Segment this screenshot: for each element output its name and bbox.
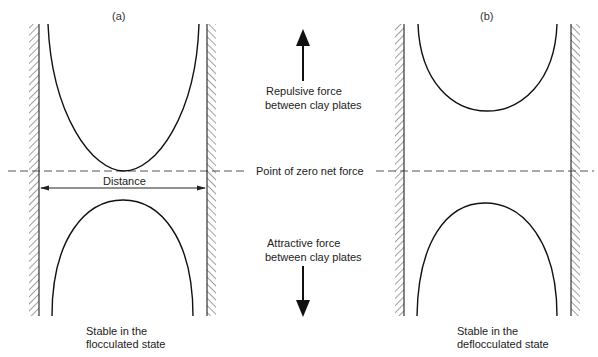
zero-force-label: Point of zero net force [256, 165, 364, 177]
arrow-up-icon [296, 29, 310, 81]
right-plate-wall [571, 24, 580, 316]
right-plate-wall [207, 24, 216, 316]
left-plate-wall [395, 24, 404, 316]
attractive-label-line2: between clay plates [265, 251, 362, 263]
repulsive-curve [48, 24, 199, 171]
panel-a-caption-line2: flocculated state [86, 338, 166, 350]
panel-b-caption-line2: deflocculated state [457, 338, 549, 350]
repulsive-label-line2: between clay plates [265, 99, 362, 111]
center-annotations: Repulsive force between clay plates Poin… [256, 29, 364, 317]
panel-a: (a) Distance Stable in the flocculated s… [29, 10, 216, 350]
panel-b-label: (b) [480, 10, 493, 22]
repulsive-curve [418, 24, 557, 111]
distance-label: Distance [103, 175, 146, 187]
clay-plate-force-diagram: (a) Distance Stable in the flocculated s… [0, 0, 598, 357]
attractive-curve [52, 200, 193, 316]
panel-a-caption-line1: Stable in the [86, 325, 147, 337]
left-plate-wall [29, 24, 39, 316]
panel-a-label: (a) [112, 10, 125, 22]
panel-b: (b) Stable in the deflocculated state [395, 10, 580, 350]
attractive-label-line1: Attractive force [267, 237, 340, 249]
arrow-down-icon [296, 266, 310, 317]
attractive-curve [417, 203, 557, 316]
panel-b-caption-line1: Stable in the [457, 325, 518, 337]
repulsive-label-line1: Repulsive force [266, 85, 342, 97]
